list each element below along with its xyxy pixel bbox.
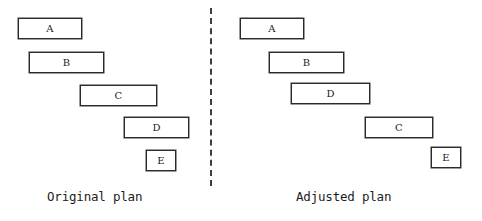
adjusted-plan-caption: Adjusted plan bbox=[296, 189, 391, 204]
task-bar-original-e[interactable]: E bbox=[146, 150, 176, 171]
task-bar-label: D bbox=[326, 88, 334, 98]
task-bar-original-a[interactable]: A bbox=[18, 18, 82, 39]
task-bar-label: D bbox=[152, 122, 160, 132]
task-bar-label: B bbox=[303, 57, 311, 67]
task-bar-label: E bbox=[157, 155, 165, 165]
task-bar-original-d[interactable]: D bbox=[124, 117, 189, 138]
adjusted-plan-panel: A B D C E Adjusted plan bbox=[211, 0, 482, 221]
task-bar-original-c[interactable]: C bbox=[80, 85, 157, 106]
task-bar-original-b[interactable]: B bbox=[29, 52, 104, 73]
task-bar-adjusted-c[interactable]: C bbox=[365, 117, 433, 138]
task-bar-label: C bbox=[115, 90, 123, 100]
schedule-comparison-figure: A B C D E Original plan A B D C E bbox=[0, 0, 482, 221]
task-bar-adjusted-d[interactable]: D bbox=[291, 83, 370, 104]
original-plan-panel: A B C D E Original plan bbox=[0, 0, 211, 221]
task-bar-label: B bbox=[63, 57, 71, 67]
task-bar-label: A bbox=[268, 23, 275, 33]
task-bar-adjusted-e[interactable]: E bbox=[431, 147, 461, 168]
task-bar-label: E bbox=[442, 152, 450, 162]
original-plan-caption: Original plan bbox=[47, 189, 142, 204]
task-bar-adjusted-b[interactable]: B bbox=[269, 52, 344, 73]
task-bar-adjusted-a[interactable]: A bbox=[240, 18, 304, 39]
task-bar-label: C bbox=[395, 122, 403, 132]
task-bar-label: A bbox=[46, 23, 53, 33]
